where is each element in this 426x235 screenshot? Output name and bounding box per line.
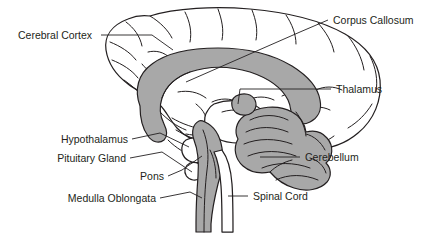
label-pituitary-gland: Pituitary Gland: [57, 152, 126, 164]
label-cerebellum: Cerebellum: [305, 151, 359, 163]
label-medulla-oblongata: Medulla Oblongata: [68, 192, 156, 204]
label-pons: Pons: [140, 170, 164, 182]
label-spinal-cord: Spinal Cord: [253, 190, 308, 202]
label-hypothalamus: Hypothalamus: [61, 133, 128, 145]
leader-medulla-oblongata: [160, 192, 202, 198]
label-corpus-callosum: Corpus Callosum: [333, 14, 414, 26]
label-thalamus: Thalamus: [336, 83, 382, 95]
label-cerebral-cortex: Cerebral Cortex: [18, 29, 93, 41]
pineal-lobe-shape: [232, 94, 256, 115]
brain-diagram: Cerebral Cortex Corpus Callosum Thalamus…: [0, 0, 426, 235]
